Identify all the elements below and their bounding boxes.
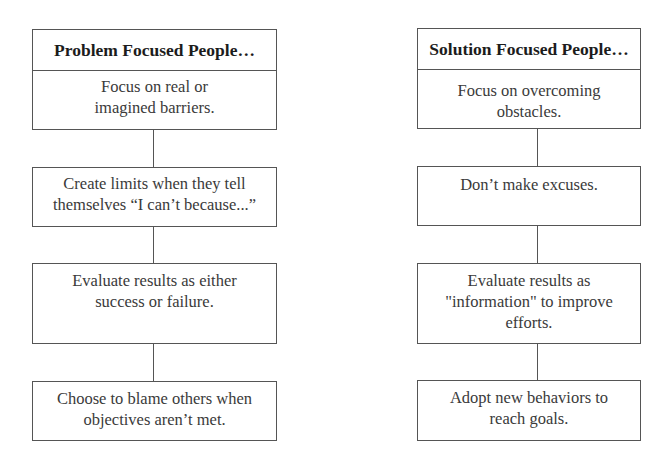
solution-step-2-text: Don’t make excuses. bbox=[418, 167, 640, 195]
connector-line bbox=[537, 226, 538, 263]
line: objectives aren’t met. bbox=[83, 410, 225, 429]
line: "information" to improve bbox=[445, 292, 612, 311]
line: imagined barriers. bbox=[94, 98, 214, 117]
problem-focused-box-4: Choose to blame others when objectives a… bbox=[32, 381, 277, 441]
connector-line bbox=[537, 129, 538, 166]
problem-step-4-text: Choose to blame others when objectives a… bbox=[33, 382, 276, 430]
line: Focus on real or bbox=[101, 77, 208, 96]
problem-focused-box-3: Evaluate results as either success or fa… bbox=[32, 263, 277, 344]
line: Adopt new behaviors to bbox=[450, 388, 608, 407]
line: Create limits when they tell bbox=[63, 174, 245, 193]
connector-line bbox=[153, 344, 154, 381]
solution-focused-box-2: Don’t make excuses. bbox=[417, 166, 641, 226]
line: Focus on overcoming bbox=[458, 81, 601, 100]
problem-step-3-text: Evaluate results as either success or fa… bbox=[33, 264, 276, 312]
line: success or failure. bbox=[95, 292, 214, 311]
line: Evaluate results as bbox=[468, 271, 591, 290]
line: Don’t make excuses. bbox=[460, 175, 598, 194]
line: efforts. bbox=[506, 313, 553, 332]
problem-step-2-text: Create limits when they tell themselves … bbox=[33, 168, 276, 215]
solution-focused-title: Solution Focused People… bbox=[418, 29, 640, 70]
line: Evaluate results as either bbox=[72, 271, 236, 290]
line: reach goals. bbox=[490, 409, 569, 428]
connector-line bbox=[153, 227, 154, 263]
solution-step-1-text: Focus on overcoming obstacles. bbox=[418, 70, 640, 122]
solution-focused-box-3: Evaluate results as "information" to imp… bbox=[417, 263, 641, 344]
solution-focused-box-4: Adopt new behaviors to reach goals. bbox=[417, 380, 641, 441]
solution-step-4-text: Adopt new behaviors to reach goals. bbox=[418, 381, 640, 429]
line: Choose to blame others when bbox=[57, 389, 252, 408]
line: themselves “I can’t because...” bbox=[53, 195, 256, 214]
solution-focused-box-1: Solution Focused People… Focus on overco… bbox=[417, 28, 641, 129]
connector-line bbox=[153, 130, 154, 167]
problem-step-1-text: Focus on real or imagined barriers. bbox=[33, 71, 276, 118]
connector-line bbox=[537, 344, 538, 380]
problem-focused-box-1: Problem Focused People… Focus on real or… bbox=[32, 29, 277, 130]
line: obstacles. bbox=[497, 102, 562, 121]
problem-focused-title: Problem Focused People… bbox=[33, 30, 276, 71]
problem-focused-box-2: Create limits when they tell themselves … bbox=[32, 167, 277, 227]
solution-step-3-text: Evaluate results as "information" to imp… bbox=[418, 264, 640, 333]
